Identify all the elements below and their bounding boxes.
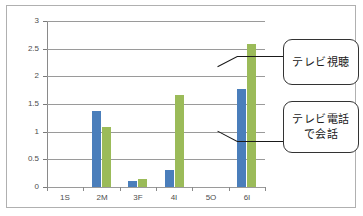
x-axis-tick-label: 6I	[230, 193, 264, 202]
x-axis-tick-label: 3F	[121, 193, 155, 202]
y-axis-tick	[43, 49, 47, 50]
bar-3F-series1	[128, 181, 137, 187]
gridline	[47, 132, 265, 133]
gridline	[47, 76, 265, 77]
gridline	[47, 104, 265, 105]
callout-tv-viewing[interactable]: テレビ視聴	[283, 39, 359, 85]
bar-3F-series2	[138, 179, 147, 187]
callout-tv-viewing-label: テレビ視聴	[292, 55, 350, 70]
x-axis-tick	[192, 187, 193, 191]
bar-6I-series2	[247, 44, 256, 187]
x-axis-tick-label: 5O	[194, 193, 228, 202]
y-axis-tick	[43, 76, 47, 77]
x-axis-tick-label: 1S	[48, 193, 82, 202]
y-axis-tick	[43, 21, 47, 22]
y-axis-tick-label: 2	[17, 72, 39, 80]
y-axis-tick-label: 1	[17, 128, 39, 136]
y-axis-tick	[43, 104, 47, 105]
y-axis-tick-label: 3	[17, 17, 39, 25]
bar-2M-series1	[92, 111, 101, 187]
x-axis-tick	[229, 187, 230, 191]
bar-4I-series1	[165, 170, 174, 187]
bar-2M-series2	[102, 127, 111, 187]
x-axis-tick	[156, 187, 157, 191]
y-axis-tick-label: 1.5	[17, 100, 39, 108]
gridline	[47, 49, 265, 50]
x-axis-tick	[120, 187, 121, 191]
x-axis-tick	[265, 187, 266, 191]
y-axis-tick-label: 2.5	[17, 45, 39, 53]
x-axis-tick-label: 4I	[157, 193, 191, 202]
bar-6I-series1	[237, 89, 246, 187]
gridline	[47, 21, 265, 22]
callout-tv-phone-conversation[interactable]: テレビ電話 で会話	[283, 101, 359, 153]
x-axis-tick	[83, 187, 84, 191]
y-axis-tick	[43, 132, 47, 133]
bar-4I-series2	[175, 95, 184, 187]
y-axis-tick	[43, 159, 47, 160]
x-axis-tick	[47, 187, 48, 191]
callout-tv-phone-line2: で会話	[304, 127, 339, 142]
callout-tv-phone-line1: テレビ電話	[292, 112, 350, 127]
y-axis-tick-label: 0	[17, 183, 39, 191]
chart-frame: 00.511.522.53 1S2M3F4I5O6I テレビ視聴 テレビ電話 で…	[6, 5, 356, 208]
y-axis-tick-label: 0.5	[17, 155, 39, 163]
x-axis-tick-label: 2M	[85, 193, 119, 202]
gridline	[47, 159, 265, 160]
